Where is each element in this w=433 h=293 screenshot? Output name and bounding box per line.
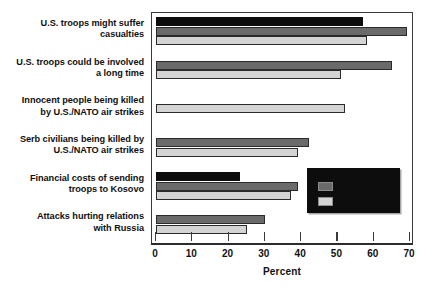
category-label-line: U.S. troops might suffer — [0, 18, 144, 29]
bar-chart-figure: U.S. troops might suffercasualtiesU.S. t… — [0, 0, 433, 293]
category-label: Financial costs of sendingtroops to Koso… — [0, 173, 144, 196]
x-axis-tick — [336, 232, 337, 241]
bar — [156, 182, 298, 191]
bar — [156, 61, 392, 70]
bar — [156, 17, 363, 26]
x-axis-tick — [409, 232, 410, 241]
category-label: Attacks hurting relationswith Russia — [0, 211, 144, 234]
category-label-line: with Russia — [0, 223, 144, 234]
category-label: U.S. troops might suffercasualties — [0, 18, 144, 41]
category-label: U.S. troops could be involveda long time — [0, 57, 144, 80]
x-axis-tick — [373, 232, 374, 241]
x-axis-line — [151, 243, 413, 245]
bar — [156, 70, 341, 79]
category-label-line: a long time — [0, 68, 144, 79]
category-label-line: Financial costs of sending — [0, 173, 144, 184]
x-axis-title: Percent — [151, 266, 413, 277]
category-label: Innocent people being killedby U.S./NATO… — [0, 95, 144, 118]
bar — [156, 215, 265, 224]
x-axis-tick — [228, 232, 229, 241]
x-axis-tick-label: 50 — [331, 248, 342, 259]
category-label-line: casualties — [0, 29, 144, 40]
bar — [156, 172, 240, 181]
legend-swatch — [318, 197, 333, 206]
x-axis-tick — [155, 232, 156, 241]
legend-swatch — [318, 182, 333, 191]
category-label-line: Serb civilians being killed by — [0, 134, 144, 145]
x-axis-tick-label: 30 — [258, 248, 269, 259]
x-axis-tick-label: 10 — [186, 248, 197, 259]
category-label-line: by U.S./NATO air strikes — [0, 107, 144, 118]
x-axis-tick-label: 70 — [403, 248, 414, 259]
category-label-line: troops to Kosovo — [0, 184, 144, 195]
category-label-line: U.S./NATO air strikes — [0, 145, 144, 156]
x-axis-tick — [264, 232, 265, 241]
x-axis-tick-label: 40 — [295, 248, 306, 259]
bar — [156, 36, 367, 45]
category-label: Serb civilians being killed byU.S./NATO … — [0, 134, 144, 157]
bar — [156, 191, 291, 200]
x-axis-tick — [191, 232, 192, 241]
legend-item — [318, 197, 338, 206]
bar — [156, 138, 309, 147]
category-label-line: U.S. troops could be involved — [0, 57, 144, 68]
bar — [156, 27, 407, 36]
chart-legend — [307, 168, 400, 213]
category-label-line: Attacks hurting relations — [0, 211, 144, 222]
category-label-line: Innocent people being killed — [0, 95, 144, 106]
x-axis-tick-label: 0 — [152, 248, 158, 259]
category-labels: U.S. troops might suffercasualtiesU.S. t… — [0, 12, 150, 244]
x-axis-tick-label: 60 — [367, 248, 378, 259]
legend-item — [318, 182, 338, 191]
x-axis-tick-label: 20 — [222, 248, 233, 259]
x-axis-tick — [300, 232, 301, 241]
bar — [156, 148, 298, 157]
bar — [156, 104, 345, 113]
bar — [156, 225, 247, 234]
